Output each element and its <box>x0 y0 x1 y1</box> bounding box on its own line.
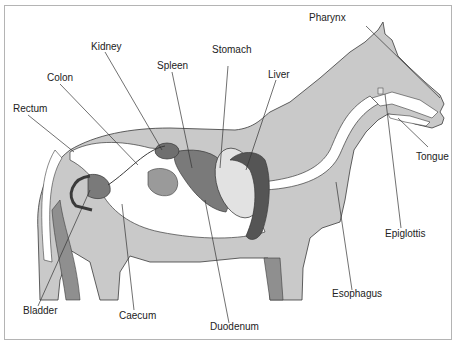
label-colon: Colon <box>47 72 73 84</box>
epiglottis-shape <box>378 88 383 94</box>
label-esophagus: Esophagus <box>332 288 382 300</box>
label-liver: Liver <box>268 69 290 81</box>
label-spleen: Spleen <box>157 60 188 72</box>
label-epiglottis: Epiglottis <box>385 228 426 240</box>
label-rectum: Rectum <box>13 103 47 115</box>
label-caecum: Caecum <box>119 310 156 322</box>
label-kidney: Kidney <box>91 41 122 53</box>
front-leg-shade <box>264 258 283 300</box>
kidney-organ <box>155 143 179 159</box>
label-tongue: Tongue <box>416 151 449 163</box>
label-pharynx: Pharynx <box>309 12 346 24</box>
label-stomach: Stomach <box>212 44 251 56</box>
label-duodenum: Duodenum <box>210 321 259 333</box>
label-bladder: Bladder <box>23 305 57 317</box>
